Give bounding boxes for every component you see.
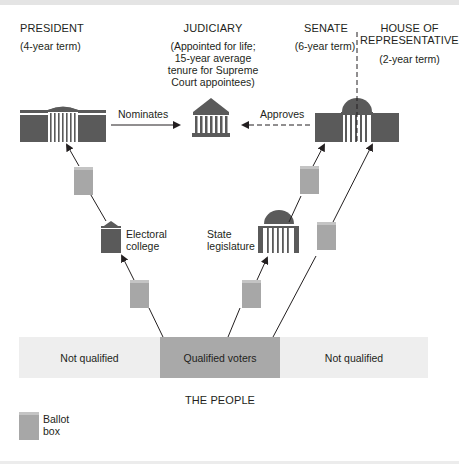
house-term: (2-year term) [360,53,459,65]
ballot-box-icon [242,280,261,308]
qualified-voters: Qualified voters [160,337,280,378]
state-legislature-label: State legislature [207,228,255,252]
ballot-box-icon [317,222,336,250]
judiciary-title: JUDICIARY [170,22,256,34]
senate-title: SENATE [294,22,358,34]
senate-term: (6-year term) [290,40,360,52]
ballot-box-icon [130,280,149,308]
nominates-label: Nominates [118,108,168,120]
president-title: PRESIDENT [20,22,84,34]
ballot-box-icon [74,167,93,195]
not-qualified-left: Not qualified [19,337,160,378]
state-legislature-icon [258,210,299,253]
judiciary-term: (Appointed for life; 15-year average ten… [163,40,263,88]
supreme-court-icon [192,98,230,137]
electoral-college-icon [101,221,121,253]
white-house-icon [20,107,106,143]
house-title: HOUSE OF REPRESENTATIVES [360,22,459,46]
approves-label: Approves [260,108,304,120]
president-term: (4-year term) [20,40,81,52]
not-qualified-right: Not qualified [280,337,428,378]
the-people-caption: THE PEOPLE [160,394,280,406]
legend-ballot-box-icon [19,412,39,440]
electoral-college-label: Electoral college [126,228,167,252]
legend-ballot-box-label: Ballot box [43,413,69,437]
ballot-box-icon [300,166,319,194]
